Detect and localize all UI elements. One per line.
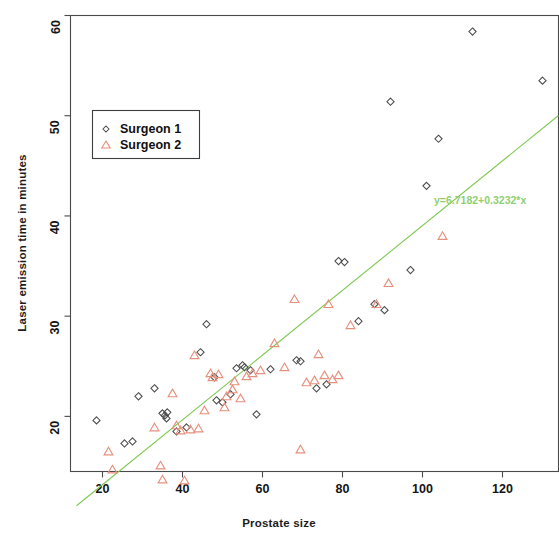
data-point-surgeon-2 bbox=[302, 378, 311, 386]
data-point-surgeon-1 bbox=[121, 440, 128, 447]
data-point-surgeon-1 bbox=[469, 28, 476, 35]
legend: Surgeon 1 Surgeon 2 bbox=[93, 111, 200, 159]
data-point-surgeon-1 bbox=[435, 135, 442, 142]
data-point-surgeon-1 bbox=[335, 257, 342, 264]
data-point-surgeon-2 bbox=[438, 232, 447, 240]
data-point-surgeon-1 bbox=[253, 411, 260, 418]
data-point-surgeon-2 bbox=[296, 445, 305, 453]
data-point-surgeon-2 bbox=[150, 423, 159, 431]
data-point-surgeon-2 bbox=[314, 350, 323, 358]
y-axis-title: Laser emission time in minutes bbox=[16, 154, 28, 331]
y-axis-ticks: 2030405060 bbox=[49, 16, 71, 435]
data-point-surgeon-1 bbox=[313, 385, 320, 392]
legend-label-surgeon-1: Surgeon 1 bbox=[120, 122, 181, 136]
data-point-surgeon-2 bbox=[236, 394, 245, 402]
y-tick-label: 30 bbox=[49, 321, 63, 335]
data-point-surgeon-1 bbox=[203, 321, 210, 328]
legend-label-surgeon-2: Surgeon 2 bbox=[120, 138, 181, 152]
data-point-surgeon-1 bbox=[93, 417, 100, 424]
x-tick-label: 100 bbox=[412, 482, 433, 496]
data-point-surgeon-2 bbox=[256, 366, 265, 374]
data-point-surgeon-1 bbox=[387, 98, 394, 105]
series-surgeon-2 bbox=[104, 232, 447, 484]
plot-canvas: 2030405060 20406080100120 y=6.7182+0.323… bbox=[0, 0, 559, 535]
data-point-surgeon-2 bbox=[156, 461, 165, 469]
data-point-surgeon-1 bbox=[423, 182, 430, 189]
x-tick-label: 120 bbox=[492, 482, 513, 496]
data-point-surgeon-1 bbox=[407, 266, 414, 273]
data-point-surgeon-1 bbox=[129, 438, 136, 445]
data-point-surgeon-2 bbox=[104, 447, 113, 455]
data-point-surgeon-1 bbox=[341, 258, 348, 265]
data-point-surgeon-2 bbox=[158, 475, 167, 483]
scatter-plot-figure: 2030405060 20406080100120 y=6.7182+0.323… bbox=[0, 0, 559, 535]
y-tick-label: 50 bbox=[49, 120, 63, 134]
regression-equation-label: y=6.7182+0.3232*x bbox=[434, 194, 526, 206]
x-tick-label: 80 bbox=[336, 482, 350, 496]
data-point-surgeon-2 bbox=[346, 321, 355, 329]
data-point-surgeon-2 bbox=[228, 385, 237, 393]
data-point-surgeon-2 bbox=[290, 295, 299, 303]
x-tick-label: 60 bbox=[256, 482, 270, 496]
data-point-surgeon-2 bbox=[310, 376, 319, 384]
y-tick-label: 60 bbox=[49, 20, 63, 34]
data-point-surgeon-2 bbox=[334, 371, 343, 379]
y-tick-label: 40 bbox=[49, 220, 63, 234]
data-point-surgeon-2 bbox=[200, 406, 209, 414]
plot-frame bbox=[71, 16, 559, 472]
data-point-surgeon-1 bbox=[151, 385, 158, 392]
data-point-surgeon-1 bbox=[539, 77, 546, 84]
y-tick-label: 20 bbox=[49, 421, 63, 435]
data-point-surgeon-1 bbox=[381, 307, 388, 314]
data-point-surgeon-2 bbox=[280, 363, 289, 371]
data-point-surgeon-2 bbox=[320, 371, 329, 379]
data-point-surgeon-1 bbox=[135, 393, 142, 400]
data-point-surgeon-1 bbox=[355, 318, 362, 325]
data-point-surgeon-1 bbox=[197, 349, 204, 356]
data-point-surgeon-2 bbox=[194, 424, 203, 432]
regression-line bbox=[77, 115, 559, 505]
x-axis-title: Prostate size bbox=[242, 517, 316, 529]
x-axis-ticks: 20406080100120 bbox=[96, 472, 513, 496]
data-point-surgeon-2 bbox=[168, 389, 177, 397]
data-point-surgeon-2 bbox=[384, 279, 393, 287]
data-point-surgeon-1 bbox=[267, 366, 274, 373]
